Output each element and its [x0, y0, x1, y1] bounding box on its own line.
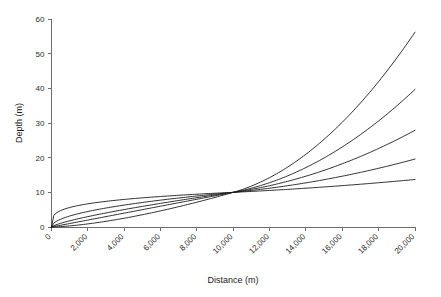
x-tick-label: 12,000: [247, 232, 271, 256]
x-tick-label: 20,000: [393, 232, 417, 256]
y-tick-label: 50: [36, 50, 45, 59]
curve-4: [52, 89, 416, 227]
y-tick-label: 60: [36, 15, 45, 24]
chart-figure: 0102030405060 02,0004,0006,0008,00010,00…: [0, 0, 441, 297]
y-tick-label: 0: [40, 223, 45, 232]
curve-3: [52, 130, 416, 227]
x-tick-label: 2,000: [69, 232, 90, 253]
x-tick-label: 16,000: [320, 232, 344, 256]
x-tick-label: 10,000: [211, 232, 235, 256]
y-tick-label: 10: [36, 188, 45, 197]
axes-group: [51, 19, 415, 228]
x-tick-label: 4,000: [105, 232, 126, 253]
y-axis-ticks: [48, 19, 52, 227]
x-tick-label: 0: [43, 232, 53, 242]
x-axis-tick-labels: 02,0004,0006,0008,00010,00012,00014,0001…: [43, 232, 416, 256]
y-tick-label: 30: [36, 119, 45, 128]
x-tick-label: 14,000: [284, 232, 308, 256]
curve-1-shallow: [52, 180, 416, 227]
x-tick-label: 8,000: [178, 232, 199, 253]
x-tick-label: 18,000: [356, 232, 380, 256]
depth-distance-line-chart: 0102030405060 02,0004,0006,0008,00010,00…: [0, 0, 441, 297]
curve-5-steep: [52, 32, 416, 227]
y-axis-tick-labels: 0102030405060: [36, 15, 45, 232]
x-tick-label: 6,000: [141, 232, 162, 253]
y-tick-label: 20: [36, 154, 45, 163]
y-axis-title: Depth (m): [14, 103, 24, 143]
y-tick-label: 40: [36, 84, 45, 93]
x-axis-title: Distance (m): [207, 275, 258, 285]
data-curves-group: [52, 32, 416, 227]
